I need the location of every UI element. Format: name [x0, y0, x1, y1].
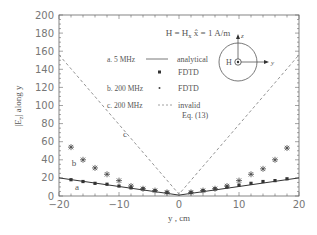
curve-label-a: a	[75, 182, 79, 192]
y-axis-label: |Ez| along y	[13, 85, 24, 127]
y-tick-label: 160	[35, 46, 54, 57]
y-tick-label: 20	[41, 172, 54, 183]
curve-label-b: b	[72, 158, 77, 168]
x-axis-label: y , cm	[168, 213, 190, 223]
legend-desc: analytical	[177, 55, 209, 64]
series-square	[69, 177, 288, 194]
y-tick-label: 60	[41, 136, 54, 147]
legend-desc: FDTD	[178, 84, 199, 93]
y-tick-label: 80	[41, 118, 54, 129]
legend-desc-2: Eq. (13)	[182, 111, 209, 120]
x-tick-label: 10	[233, 199, 246, 210]
inset-axis-y: y	[270, 59, 275, 67]
inset-diagram: Hzy	[219, 32, 275, 81]
x-tick-label: 0	[176, 199, 182, 210]
legend-desc: invalid	[178, 101, 200, 110]
legend-label: c. 200 MHz	[107, 101, 143, 110]
y-tick-label: 120	[35, 82, 54, 93]
inset-center-label: H	[226, 58, 232, 67]
inset-axis-z: z	[240, 32, 244, 40]
chart-title: H = Hx x̂ = 1 A/m	[166, 28, 230, 39]
y-tick-label: 100	[35, 100, 54, 111]
legend-label: a. 5 MHz	[107, 55, 136, 64]
curve-label-c: c	[123, 129, 127, 139]
y-tick-label: 140	[35, 64, 54, 75]
legend: a. 5 MHzanalyticalFDTDb. 200 MHzFDTDc. 2…	[107, 55, 209, 120]
legend-desc: FDTD	[178, 68, 199, 77]
y-tick-label: 180	[35, 28, 54, 39]
x-tick-label: 20	[293, 199, 306, 210]
y-tick-label: 0	[48, 191, 54, 202]
y-tick-label: 200	[35, 10, 54, 21]
legend-label: b. 200 MHz	[107, 84, 144, 93]
y-tick-label: 40	[41, 154, 54, 165]
chart: −20−1001020020406080100120140160180200 a…	[0, 0, 317, 235]
series-star	[68, 144, 290, 195]
x-tick-label: −10	[108, 199, 129, 210]
